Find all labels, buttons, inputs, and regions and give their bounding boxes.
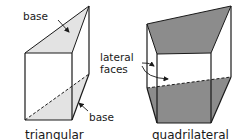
- quadrilateral-bottom-base: [147, 77, 231, 123]
- prism-diagram: base base lateral faces triangular quadr…: [0, 0, 235, 140]
- quadrilateral-caption: quadrilateral: [152, 128, 229, 140]
- quadrilateral-prism: [147, 6, 231, 123]
- bottom-base-label: base: [89, 111, 114, 123]
- triangular-caption: triangular: [25, 128, 84, 140]
- lateral-faces-label-line1: lateral: [100, 51, 134, 63]
- lateral-faces-arrow-lower: [142, 66, 168, 79]
- lateral-faces-arrow-upper: [142, 63, 154, 66]
- quadrilateral-top-base: [147, 6, 231, 54]
- top-base-label: base: [23, 10, 48, 22]
- bottom-base-arrow: [79, 103, 88, 111]
- lateral-faces-label-line2: faces: [100, 63, 128, 75]
